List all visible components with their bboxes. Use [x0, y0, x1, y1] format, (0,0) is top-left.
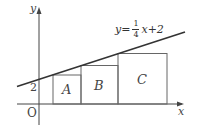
diagram: y x O 2 A B C y= 1 4 x+2: [0, 0, 198, 139]
box-c-label: C: [137, 73, 147, 86]
x-axis-label: x: [178, 106, 184, 117]
y-intercept-label: 2: [30, 82, 37, 93]
fraction-numerator: 1: [133, 20, 138, 28]
equation-fraction: 1 4: [132, 20, 139, 39]
y-axis-label: y: [30, 3, 36, 14]
y-axis-arrow-icon: [37, 7, 42, 14]
fraction-denominator: 4: [133, 31, 138, 39]
box-b-label: B: [94, 79, 104, 92]
equation-prefix: y=: [115, 23, 130, 36]
box-a-label: A: [62, 83, 71, 96]
equation-suffix: x+2: [141, 23, 163, 36]
line-equation: y= 1 4 x+2: [115, 20, 164, 39]
origin-label: O: [27, 107, 37, 119]
